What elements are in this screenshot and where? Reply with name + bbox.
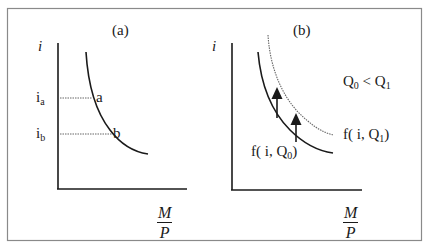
panel-a-axes	[57, 43, 187, 189]
curve-q1-label: f( i, Q1)	[343, 127, 389, 144]
condition-label: Q0 < Q1	[343, 74, 391, 91]
panel-b-title: (b)	[293, 23, 311, 38]
x-label-denominator: P	[343, 223, 358, 241]
condition-right-sub: 1	[386, 80, 391, 91]
x-label-numerator: M	[343, 205, 358, 223]
panel-a-x-label: M P	[157, 205, 172, 241]
shift-arrow-1	[272, 87, 283, 118]
x-label-denominator: P	[157, 223, 172, 241]
arrowhead-up-icon	[272, 87, 283, 99]
panel-a-guides	[60, 98, 112, 134]
condition-op: <	[359, 73, 375, 89]
level-ib-sub: b	[40, 132, 45, 143]
panel-b-y-label: i	[212, 39, 216, 54]
curve-q0-suffix: )	[292, 143, 297, 159]
curve-q1-suffix: )	[384, 126, 389, 142]
arrowhead-up-icon	[291, 113, 302, 125]
level-ia-sub: a	[40, 96, 44, 107]
curve-q1	[268, 35, 334, 135]
shift-arrow-2	[291, 113, 302, 142]
curve-q0-label: f( i, Q0)	[251, 144, 297, 161]
condition-right: Q	[375, 73, 386, 89]
curve-q1-prefix: f( i, Q	[343, 126, 379, 142]
x-label-numerator: M	[157, 205, 172, 223]
panel-b-x-label: M P	[343, 205, 358, 241]
level-ia-label: ia	[36, 90, 45, 107]
point-a-label: a	[96, 90, 103, 105]
level-ib-label: ib	[36, 126, 45, 143]
panel-a-y-label: i	[38, 39, 42, 54]
condition-left: Q	[343, 73, 354, 89]
point-b-label: b	[113, 126, 121, 141]
panel-a-title: (a)	[112, 23, 129, 38]
curve-q0-prefix: f( i, Q	[251, 143, 287, 159]
